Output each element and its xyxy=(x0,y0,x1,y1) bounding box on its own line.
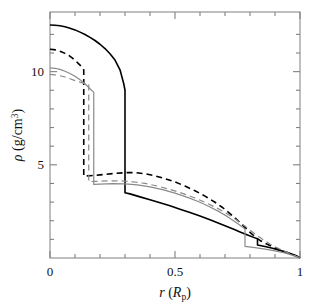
y-tick-label-5: 5 xyxy=(38,157,45,172)
x-tick-label-0.5: 0.5 xyxy=(167,264,183,279)
y-axis-ticks xyxy=(50,34,300,239)
y-axis-title: ρ (g/cm3) xyxy=(10,109,26,163)
x-axis-title-R: R xyxy=(172,285,182,300)
x-axis-ticks xyxy=(50,12,300,258)
curve-black-dashed xyxy=(50,49,300,258)
x-axis-title: r (Rp) xyxy=(159,285,191,302)
y-tick-label-10: 10 xyxy=(31,64,44,79)
data-curves xyxy=(50,25,300,258)
plot-frame xyxy=(50,12,300,258)
density-profile-figure: 0 0.5 1 5 10 r (Rp) ρ (g/cm3) xyxy=(0,0,318,304)
svg-text:ρ (g/cm3): ρ (g/cm3) xyxy=(10,109,26,163)
curve-gray-dashed xyxy=(50,74,300,258)
y-axis-title-unit-close: ) xyxy=(10,109,26,114)
svg-text:r (Rp): r (Rp) xyxy=(159,285,191,302)
x-tick-label-1: 1 xyxy=(297,264,304,279)
curve-gray-solid xyxy=(50,68,300,258)
axes-border xyxy=(50,12,300,258)
plot-canvas: 0 0.5 1 5 10 r (Rp) ρ (g/cm3) xyxy=(0,0,318,304)
curve-black-solid xyxy=(50,25,300,258)
x-tick-label-0: 0 xyxy=(47,264,54,279)
y-axis-title-unit-open: (g/cm xyxy=(10,118,26,154)
x-axis-title-paren-close: ) xyxy=(186,285,191,301)
